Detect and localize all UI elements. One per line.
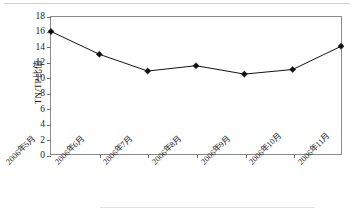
y-tick-label: 10 [36, 74, 46, 84]
x-tick-mark [100, 154, 101, 158]
scan-artifact-bottom-line [100, 207, 315, 208]
data-point-marker [145, 68, 151, 74]
plot-area: TN/TP比值 024681012141618 [50, 16, 342, 155]
scan-artifact-top-line [4, 3, 350, 4]
data-point-marker [290, 66, 296, 72]
y-tick-label: 18 [36, 12, 46, 22]
figure-canvas: TN/TP比值 024681012141618 2006年5月2006年6月20… [0, 0, 354, 215]
y-tick-label: 8 [40, 89, 45, 99]
data-point-marker [338, 43, 344, 49]
x-tick-mark [197, 154, 198, 158]
y-tick-label: 2 [40, 136, 45, 146]
data-point-marker [48, 28, 54, 34]
x-tick-mark [148, 154, 149, 158]
series-markers [48, 28, 344, 77]
data-point-marker [241, 71, 247, 77]
y-tick-label: 0 [40, 151, 45, 161]
x-tick-mark [294, 154, 295, 158]
y-tick-label: 4 [40, 120, 45, 130]
x-tick-label: 2006年5月 [5, 135, 37, 167]
y-tick-label: 16 [36, 27, 46, 37]
series-tn-tp-ratio [51, 17, 341, 154]
data-point-marker [96, 51, 102, 57]
y-tick-mark [47, 156, 51, 157]
y-tick-label: 12 [36, 58, 46, 68]
y-tick-label: 6 [40, 105, 45, 115]
x-tick-mark [246, 154, 247, 158]
data-point-marker [193, 63, 199, 69]
y-tick-label: 14 [36, 43, 46, 53]
